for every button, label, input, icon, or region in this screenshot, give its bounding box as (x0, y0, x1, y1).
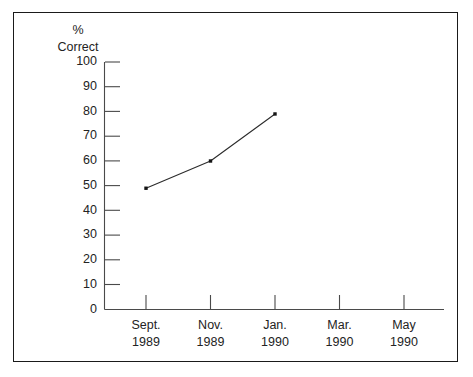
y-axis-title-line-2: Correct (58, 40, 100, 54)
data-point-marker (209, 159, 212, 162)
x-tick-label-may-year: 1990 (390, 335, 418, 349)
x-tick-label-nov-month: Nov. (198, 318, 223, 332)
y-axis-title: % Correct (58, 23, 100, 54)
x-tick-label-may-month: May (392, 318, 416, 332)
y-tick-label-90: 90 (83, 79, 97, 93)
data-point-marker (273, 112, 276, 115)
y-tick-label-70: 70 (83, 128, 97, 142)
y-axis-ticks (105, 62, 120, 285)
y-tick-label-30: 30 (83, 227, 97, 241)
data-point-markers (144, 112, 276, 190)
y-tick-label-60: 60 (83, 153, 97, 167)
x-axis-tick-labels: Sept. 1989 Nov. 1989 Jan. 1990 Mar. 1990… (131, 318, 418, 349)
y-tick-label-100: 100 (76, 54, 97, 68)
data-point-marker (144, 187, 147, 190)
y-tick-label-0: 0 (90, 302, 97, 316)
chart-figure: 100 90 80 70 60 50 40 30 20 10 0 % Corre… (0, 0, 473, 377)
line-chart-plot: 100 90 80 70 60 50 40 30 20 10 0 % Corre… (0, 0, 473, 377)
y-tick-label-80: 80 (83, 104, 97, 118)
x-tick-label-jan-year: 1990 (261, 335, 289, 349)
y-axis-tick-labels: 100 90 80 70 60 50 40 30 20 10 0 (76, 54, 97, 316)
x-tick-label-mar-year: 1990 (326, 335, 354, 349)
data-series-line (146, 114, 275, 188)
x-tick-label-mar-month: Mar. (327, 318, 351, 332)
x-tick-label-nov-year: 1989 (197, 335, 225, 349)
x-axis-ticks (146, 295, 404, 309)
y-axis-title-line-1: % (72, 23, 83, 37)
x-tick-label-jan-month: Jan. (263, 318, 287, 332)
y-tick-label-40: 40 (83, 203, 97, 217)
x-tick-label-sept-month: Sept. (131, 318, 160, 332)
x-tick-label-sept-year: 1989 (132, 335, 160, 349)
y-tick-label-20: 20 (83, 252, 97, 266)
y-tick-label-10: 10 (83, 277, 97, 291)
y-tick-label-50: 50 (83, 178, 97, 192)
